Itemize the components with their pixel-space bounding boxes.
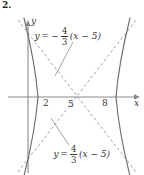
upper-eq-equals: = (40, 32, 50, 41)
upper-eq-denominator: 3 (61, 36, 68, 46)
lower-eq-factor: (x − 5) (78, 150, 110, 159)
leader-line-lower-label (51, 118, 69, 145)
lower-eq-fraction: 4 3 (70, 145, 77, 164)
lower-eq-numerator: 4 (70, 145, 77, 154)
lower-asymptote-equation-label: y = 4 3 (x − 5) (53, 145, 111, 164)
x-tick-label-8: 8 (102, 99, 108, 108)
lower-eq-denominator: 3 (70, 154, 77, 164)
hyperbola-figure: 2. y = − 4 3 (x − 5) (0, 0, 144, 175)
upper-eq-fraction: 4 3 (61, 27, 68, 46)
upper-asymptote-equation-label: y = − 4 3 (x − 5) (34, 27, 101, 46)
x-tick-label-2: 2 (43, 99, 49, 108)
y-axis-label: y (31, 17, 36, 26)
x-axis-label: x (134, 99, 139, 108)
leader-line-upper-label (55, 42, 73, 76)
upper-eq-factor: (x − 5) (69, 32, 101, 41)
upper-eq-numerator: 4 (61, 27, 68, 36)
lower-eq-equals: = (59, 150, 69, 159)
x-tick-label-5: 5 (68, 100, 74, 109)
upper-eq-sign: − (50, 32, 60, 41)
